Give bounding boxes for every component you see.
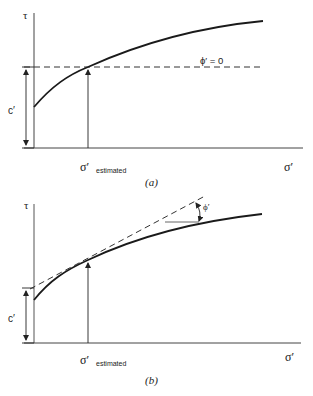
- c-prime-label-b: c′: [8, 313, 15, 324]
- figure-a: τ σ′ ϕ′ = 0 c′ σ′ estimated (a): [8, 9, 303, 189]
- sigma-estimated-label-a: σ′: [80, 160, 89, 174]
- phi-zero-label: ϕ′ = 0: [200, 55, 223, 66]
- phi-angle-arc: [196, 203, 200, 221]
- c-prime-label-a: c′: [8, 105, 15, 116]
- tangent-line: [30, 196, 205, 289]
- y-axis-label-a: τ: [23, 9, 28, 21]
- failure-envelope-a: [34, 21, 263, 107]
- caption-a: (a): [145, 176, 158, 189]
- x-axis-label-a: σ′: [284, 160, 293, 174]
- sigma-estimated-sub-a: estimated: [96, 167, 126, 174]
- sigma-estimated-label-b: σ′: [80, 353, 89, 367]
- x-axis-label-b: σ′: [285, 350, 294, 364]
- y-axis-label-b: τ: [24, 199, 29, 211]
- figure-b: τ σ′ ϕ′ c′ σ′ estimated (b): [8, 196, 301, 387]
- caption-b: (b): [145, 374, 158, 387]
- phi-angle-label: ϕ′: [203, 202, 210, 212]
- diagram-canvas: τ σ′ ϕ′ = 0 c′ σ′ estimated (a) τ σ′ ϕ′: [0, 0, 313, 396]
- sigma-estimated-sub-b: estimated: [96, 360, 126, 367]
- failure-envelope-b: [34, 214, 262, 300]
